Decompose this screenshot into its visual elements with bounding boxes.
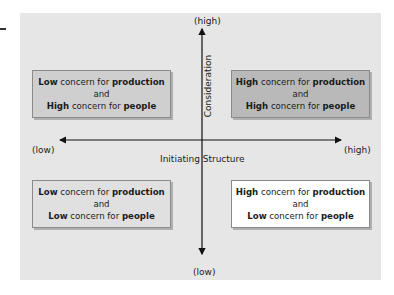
axes: [20, 13, 381, 280]
x-axis-title: Initiating Structure: [160, 154, 245, 164]
diagram-panel: Low concern for production and High conc…: [20, 13, 381, 280]
margin-dash: [0, 28, 6, 30]
y-axis-low-label: (low): [193, 267, 215, 277]
y-axis-high-label: (high): [194, 16, 221, 26]
y-axis-title: Consideration: [203, 51, 213, 121]
diagram-stage: Low concern for production and High conc…: [0, 0, 394, 295]
x-axis-low-label: (low): [32, 145, 54, 155]
x-axis-high-label: (high): [344, 145, 371, 155]
